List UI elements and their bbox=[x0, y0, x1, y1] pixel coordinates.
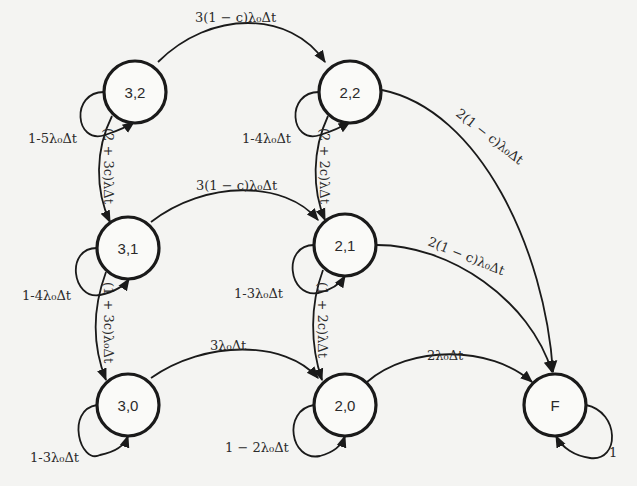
edge-2-0-to-F: 2λ₀Δt bbox=[367, 348, 532, 382]
edge-3-1-to-3-0: (1 + 3c)λ₀Δt bbox=[96, 272, 117, 380]
state-label: 3,1 bbox=[118, 240, 139, 257]
self-loop-label: 1 − 2λ₀Δt bbox=[225, 440, 290, 455]
self-loop-label: 1-5λ₀Δt bbox=[28, 131, 78, 146]
state-label: 2,2 bbox=[340, 84, 361, 101]
edge-label: (2 + 2c)λΔt bbox=[317, 128, 332, 205]
self-loop-label: 1-3λ₀Δt bbox=[234, 286, 284, 301]
edge-2-1-to-2-0: (1 + 2c)λΔt bbox=[313, 270, 330, 380]
edge-label: 3(1 − c)λ₀Δt bbox=[196, 178, 278, 193]
edge-label: 2λ₀Δt bbox=[427, 348, 464, 363]
state-node-2-0: 2,0 bbox=[314, 374, 376, 436]
edge-3-1-to-2-1: 3(1 − c)λ₀Δt bbox=[151, 178, 318, 222]
state-node-2-1: 2,1 bbox=[314, 214, 376, 276]
self-loop-label: 1 bbox=[609, 445, 617, 460]
self-loop-label: 1-3λ₀Δt bbox=[30, 450, 80, 465]
edge-3-0-to-2-0: 3λ₀Δt bbox=[151, 338, 318, 378]
state-label: F bbox=[550, 397, 559, 414]
state-label: 2,1 bbox=[335, 237, 356, 254]
edge-2-1-to-F: 2(1 − c)λ₀Δt bbox=[377, 234, 552, 372]
state-node-3-2: 3,2 bbox=[104, 61, 166, 123]
state-label: 2,0 bbox=[335, 397, 356, 414]
edge-label: 3λ₀Δt bbox=[210, 338, 247, 353]
self-loop-label: 1-4λ₀Δt bbox=[242, 131, 292, 146]
edge-2-2-to-F: 2(1 − c)λ₀Δt bbox=[382, 90, 553, 372]
state-node-F: F bbox=[524, 374, 586, 436]
edge-label: 2(1 − c)λ₀Δt bbox=[453, 106, 527, 168]
edge-3-2-to-2-2: 3(1 − c)λ₀Δt bbox=[158, 10, 325, 62]
self-loop-label: 1-4λ₀Δt bbox=[22, 288, 72, 303]
markov-state-diagram: 3(1 − c)λ₀Δt 3(1 − c)λ₀Δt 3λ₀Δt 2(1 − c)… bbox=[0, 0, 637, 486]
state-node-2-2: 2,2 bbox=[319, 61, 381, 123]
state-node-3-0: 3,0 bbox=[97, 374, 159, 436]
edge-label: (2 + 3c)λΔt bbox=[101, 128, 116, 205]
edge-label: 3(1 − c)λ₀Δt bbox=[195, 10, 277, 25]
state-label: 3,2 bbox=[125, 84, 146, 101]
state-label: 3,0 bbox=[118, 397, 139, 414]
state-node-3-1: 3,1 bbox=[97, 217, 159, 279]
